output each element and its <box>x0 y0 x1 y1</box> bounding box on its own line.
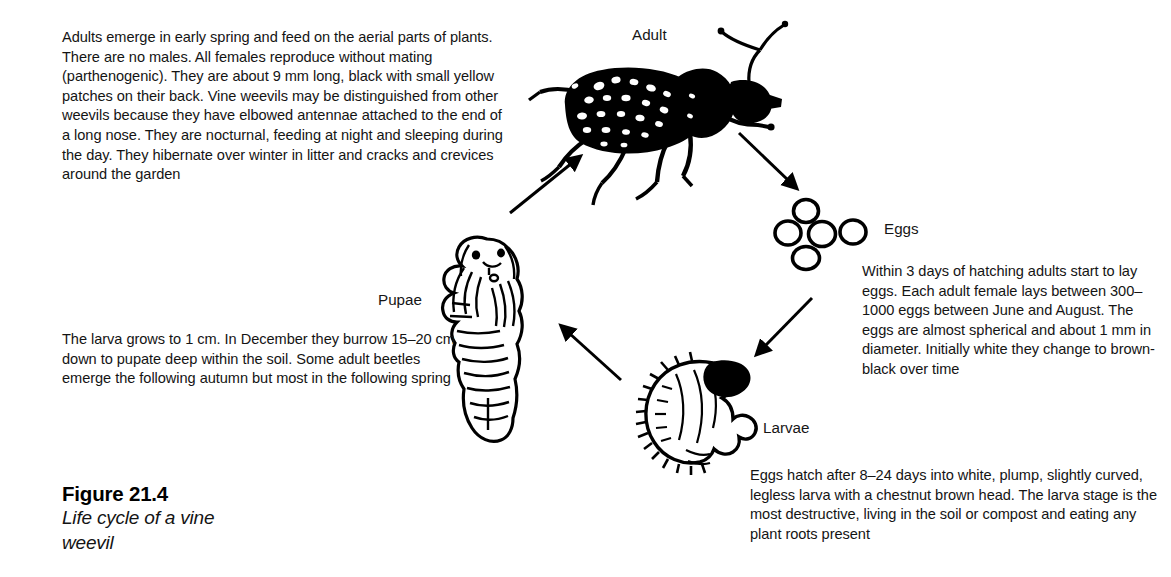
stage-label-eggs: Eggs <box>884 220 919 238</box>
pupae-description: The larva grows to 1 cm. In December the… <box>62 330 462 389</box>
stage-label-pupae: Pupae <box>378 291 422 309</box>
figure-caption-subtitle: Life cycle of a vine weevil <box>62 506 322 555</box>
figure-page: Adults emerge in early spring and feed o… <box>0 0 1171 577</box>
arrow-eggs-to-larvae <box>764 298 812 347</box>
figure-caption: Figure 21.4 Life cycle of a vine weevil <box>62 481 322 555</box>
arrow-larvae-to-pupae <box>569 333 621 380</box>
arrow-adult-to-eggs <box>739 133 789 181</box>
eggs-illustration <box>775 200 866 270</box>
arrow-pupae-to-adult <box>510 163 572 213</box>
larva-illustration <box>636 352 756 475</box>
stage-label-adult: Adult <box>632 26 667 44</box>
adult-description: Adults emerge in early spring and feed o… <box>62 28 512 185</box>
eggs-description: Within 3 days of hatching adults start t… <box>862 262 1162 380</box>
adult-weevil-illustration <box>529 21 788 205</box>
larvae-description: Eggs hatch after 8–24 days into white, p… <box>750 466 1170 544</box>
stage-label-larvae: Larvae <box>763 419 809 437</box>
figure-caption-title: Figure 21.4 <box>62 481 322 506</box>
